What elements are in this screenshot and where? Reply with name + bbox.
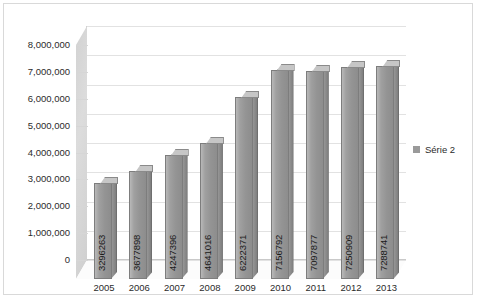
x-axis-tick-label: 2012 xyxy=(331,282,371,293)
y-axis-tick-label: 5,000,000 xyxy=(4,121,70,131)
y-axis-tick-label: 7,000,000 xyxy=(4,67,70,77)
y-axis-tick-label: 2,000,000 xyxy=(4,201,70,211)
bar-value-label: 7288741 xyxy=(378,253,389,271)
bar-2013[interactable]: 7288741 xyxy=(376,66,398,279)
bar-value-label: 3677898 xyxy=(131,253,142,271)
bar-value-label: 7097877 xyxy=(308,253,319,271)
y-axis-tick-label: 1,000,000 xyxy=(4,228,70,238)
x-axis-tick-label: 2007 xyxy=(155,282,195,293)
y-axis-tick-label: 6,000,000 xyxy=(4,94,70,104)
y-axis-tick-label: 3,000,000 xyxy=(4,174,70,184)
bar-2008[interactable]: 4641016 xyxy=(200,143,222,279)
axis-tick-mark xyxy=(76,179,88,180)
bar-2005[interactable]: 3296263 xyxy=(94,183,116,279)
bar-value-label: 4247396 xyxy=(167,253,178,271)
x-axis-tick-label: 2008 xyxy=(190,282,230,293)
y-axis-tick-label: 0 xyxy=(4,255,70,265)
bar-2010[interactable]: 7156792 xyxy=(271,70,293,279)
axis-tick-mark xyxy=(76,206,88,207)
x-axis-tick-label: 2009 xyxy=(225,282,265,293)
axis-tick-mark xyxy=(76,233,88,234)
x-axis-tick-label: 2006 xyxy=(119,282,159,293)
bar-2009[interactable]: 6222371 xyxy=(235,97,257,279)
bar-2007[interactable]: 4247396 xyxy=(165,155,187,279)
bar-value-label: 4641016 xyxy=(202,253,213,271)
x-axis-tick-label: 2010 xyxy=(261,282,301,293)
chart-legend: Série 2 xyxy=(413,144,455,155)
plot-area: 3296263367789842473964641016622237171567… xyxy=(76,26,406,279)
y-axis-tick-label: 4,000,000 xyxy=(4,148,70,158)
axis-tick-mark xyxy=(76,45,88,46)
chart-frame: 3296263367789842473964641016622237171567… xyxy=(3,3,473,295)
axis-tick-mark xyxy=(76,99,88,100)
x-axis-tick-label: 2011 xyxy=(296,282,336,293)
bar-value-label: 6222371 xyxy=(237,253,248,271)
axis-tick-mark xyxy=(76,72,88,73)
x-axis-tick-label: 2005 xyxy=(84,282,124,293)
y-axis-tick-label: 8,000,000 xyxy=(4,40,70,50)
x-axis-tick-label: 2013 xyxy=(366,282,406,293)
bar-value-label: 3296263 xyxy=(96,253,107,271)
bar-2012[interactable]: 7250909 xyxy=(341,67,363,279)
legend-label-serie-2: Série 2 xyxy=(425,144,455,155)
legend-swatch-serie-2 xyxy=(413,146,420,153)
bar-2011[interactable]: 7097877 xyxy=(306,71,328,279)
gridline xyxy=(87,55,406,56)
bar-2006[interactable]: 3677898 xyxy=(129,171,151,279)
bar-value-label: 7250909 xyxy=(343,253,354,271)
bar-value-label: 7156792 xyxy=(273,253,284,271)
axis-tick-mark xyxy=(76,153,88,154)
gridline xyxy=(87,26,406,27)
axis-tick-mark xyxy=(76,260,88,261)
axis-tick-mark xyxy=(76,126,88,127)
